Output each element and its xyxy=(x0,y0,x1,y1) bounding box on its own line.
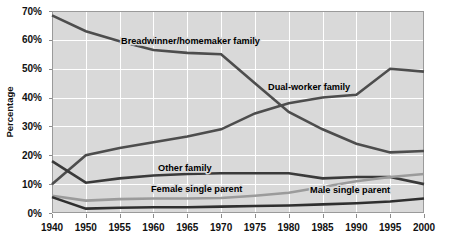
x-tick-label-1970: 1970 xyxy=(210,222,233,233)
series-label-dual-worker-family: Dual-worker family xyxy=(268,82,351,92)
series-label-female-single-parent: Female single parent xyxy=(151,184,242,194)
chart-canvas: 0%10%20%30%40%50%60%70%19401950195519601… xyxy=(0,0,458,239)
y-tick-label-50%: 50% xyxy=(22,63,42,74)
x-tick-label-1950: 1950 xyxy=(75,222,98,233)
x-tick-label-1990: 1990 xyxy=(345,222,368,233)
x-tick-label-1985: 1985 xyxy=(311,222,334,233)
line-chart-family-structure: 0%10%20%30%40%50%60%70%19401950195519601… xyxy=(0,0,458,239)
y-tick-label-10%: 10% xyxy=(22,179,42,190)
series-label-breadwinner-homemaker-family: Breadwinner/homemaker family xyxy=(121,36,261,46)
x-tick-label-1995: 1995 xyxy=(379,222,402,233)
series-label-male-single-parent: Male single parent xyxy=(310,185,390,195)
y-tick-label-0%: 0% xyxy=(28,208,43,219)
x-tick-label-1960: 1960 xyxy=(142,222,165,233)
y-axis-title: Percentage xyxy=(4,86,15,137)
x-tick-label-1940: 1940 xyxy=(41,222,64,233)
y-tick-label-30%: 30% xyxy=(22,121,42,132)
x-tick-label-1975: 1975 xyxy=(244,222,267,233)
series-label-other-family: Other family xyxy=(158,163,212,173)
y-tick-label-40%: 40% xyxy=(22,92,42,103)
x-tick-label-1980: 1980 xyxy=(278,222,301,233)
x-tick-label-2000: 2000 xyxy=(413,222,436,233)
y-tick-label-20%: 20% xyxy=(22,150,42,161)
x-tick-label-1955: 1955 xyxy=(109,222,132,233)
y-tick-label-70%: 70% xyxy=(22,6,42,17)
x-tick-label-1965: 1965 xyxy=(176,222,199,233)
y-tick-label-60%: 60% xyxy=(22,34,42,45)
